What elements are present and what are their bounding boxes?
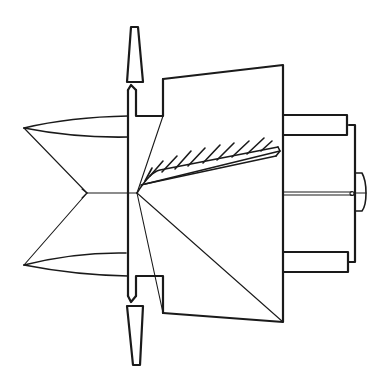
hub-assembly (283, 115, 366, 272)
housing (137, 65, 283, 322)
blade-bottom (127, 306, 143, 365)
rotor-assembly-diagram (0, 0, 389, 388)
flange-plate (128, 79, 163, 313)
blade-top (127, 27, 143, 82)
nose-cone (24, 116, 137, 276)
hatched-vane (137, 138, 280, 193)
